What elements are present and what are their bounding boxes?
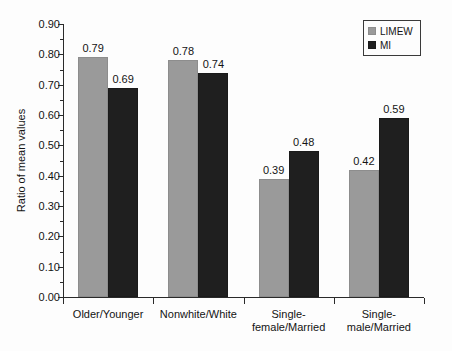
x-axis-tick-mark <box>244 298 245 304</box>
y-axis-tick-label: 0.80 <box>26 48 60 60</box>
bar-value-label: 0.78 <box>173 45 194 57</box>
bar <box>198 73 228 297</box>
legend-label: LIMEW <box>380 26 413 37</box>
legend-item: MI <box>368 38 416 52</box>
bar-value-label: 0.39 <box>263 164 284 176</box>
bar <box>259 179 289 297</box>
y-axis-tick-label: 0.60 <box>26 109 60 121</box>
y-axis-tick-label: 0.00 <box>26 291 60 303</box>
legend: LIMEWMI <box>363 20 421 56</box>
bar-chart: Ratio of mean values 0.000.100.200.300.4… <box>0 0 452 351</box>
x-axis-category-label: Older/Younger <box>73 308 144 321</box>
legend-label: MI <box>380 40 391 51</box>
y-axis-tick-label: 0.50 <box>26 139 60 151</box>
x-axis-tick-mark <box>63 298 64 304</box>
bar <box>78 57 108 297</box>
x-axis-category-label: Single-male/Married <box>347 308 411 334</box>
bar <box>289 151 319 297</box>
bar <box>168 60 198 297</box>
y-axis-tick-label: 0.20 <box>26 230 60 242</box>
y-axis-tick-label: 0.40 <box>26 170 60 182</box>
legend-swatch-icon <box>368 41 376 49</box>
bar-value-label: 0.74 <box>203 58 224 70</box>
bar-value-label: 0.48 <box>293 136 314 148</box>
bar <box>379 118 409 297</box>
bar-value-label: 0.42 <box>353 155 374 167</box>
bar <box>349 170 379 297</box>
legend-item: LIMEW <box>368 24 416 38</box>
x-axis-tick-mark <box>424 298 425 304</box>
x-axis-category-labels: Older/YoungerNonwhite/WhiteSingle- femal… <box>63 308 424 348</box>
x-axis-tick-mark <box>153 298 154 304</box>
x-axis-category-label: Single- female/Married <box>252 308 325 334</box>
y-axis-tick-labels: 0.000.100.200.300.400.500.600.700.800.90 <box>26 0 60 351</box>
bar-value-label: 0.79 <box>82 42 103 54</box>
plot-area: 0.790.690.780.740.390.480.420.59 <box>63 24 424 297</box>
bar-value-label: 0.59 <box>383 103 404 115</box>
x-axis-tick-mark <box>334 298 335 304</box>
x-axis-category-label: Nonwhite/White <box>160 308 237 321</box>
bar <box>108 88 138 297</box>
y-axis-tick-label: 0.10 <box>26 261 60 273</box>
y-axis-tick-label: 0.90 <box>26 18 60 30</box>
legend-swatch-icon <box>368 27 376 35</box>
y-axis-tick-label: 0.70 <box>26 79 60 91</box>
y-axis-tick-label: 0.30 <box>26 200 60 212</box>
bar-value-label: 0.69 <box>112 73 133 85</box>
